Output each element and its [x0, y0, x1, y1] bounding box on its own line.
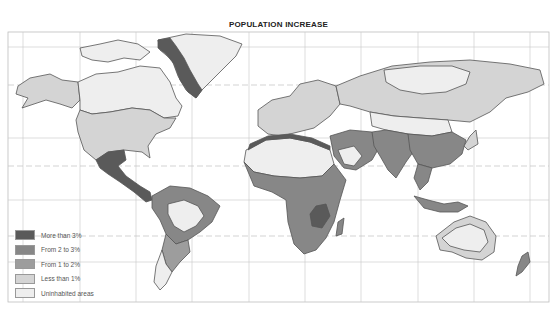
legend-swatch — [15, 274, 35, 284]
legend-label: From 2 to 3% — [41, 246, 80, 253]
region-china — [408, 132, 466, 168]
map-legend: More than 3% From 2 to 3% From 1 to 2% L… — [15, 228, 94, 301]
region-madagascar — [336, 218, 344, 236]
region-southeast-asia — [414, 164, 432, 190]
legend-item: More than 3% — [15, 228, 94, 242]
legend-label: From 1 to 2% — [41, 261, 80, 268]
region-europe — [258, 80, 340, 136]
legend-item: From 1 to 2% — [15, 257, 94, 271]
region-arctic-islands — [80, 40, 150, 62]
region-indonesia — [414, 196, 468, 212]
legend-swatch — [15, 245, 35, 255]
legend-label: Uninhabited areas — [41, 290, 94, 297]
legend-label: More than 3% — [41, 232, 81, 239]
region-alaska — [16, 74, 80, 108]
legend-swatch — [15, 288, 35, 298]
legend-swatch — [15, 230, 35, 240]
region-mexico — [96, 150, 152, 202]
legend-item: Uninhabited areas — [15, 286, 94, 300]
legend-swatch — [15, 259, 35, 269]
region-new-zealand — [516, 252, 530, 276]
legend-item: Less than 1% — [15, 272, 94, 286]
legend-item: From 2 to 3% — [15, 243, 94, 257]
legend-label: Less than 1% — [41, 275, 80, 282]
